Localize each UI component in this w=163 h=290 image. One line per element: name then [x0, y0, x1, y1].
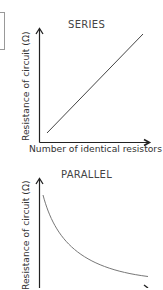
parallel-x-axis-arrow-tip	[144, 285, 148, 288]
parallel-y-axis	[36, 179, 43, 289]
parallel-curve	[43, 195, 148, 277]
